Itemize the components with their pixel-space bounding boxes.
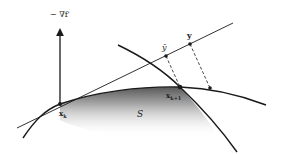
gradient-label: − ∇f′ — [50, 10, 70, 19]
projection-y — [190, 44, 210, 88]
point-x-k1 — [178, 85, 182, 89]
point-y-bar — [164, 54, 168, 58]
y-bar-label: ȳ — [161, 43, 167, 52]
projection-ybar — [166, 56, 180, 87]
point-x-k — [58, 102, 62, 106]
y-label: y — [186, 30, 192, 40]
point-proj-y — [208, 86, 212, 90]
point-y — [188, 42, 192, 46]
optimization-diagram: − ∇f′ ȳ y xk xk+1 S — [0, 0, 281, 154]
region-s-label: S — [137, 109, 143, 119]
